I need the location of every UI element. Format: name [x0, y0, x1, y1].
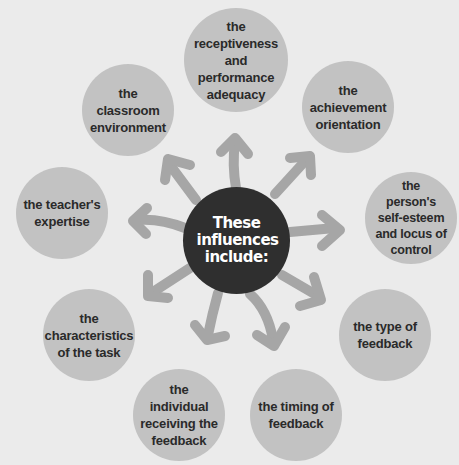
node-individual-receiving: the individual receiving the feedback — [133, 369, 225, 461]
arrow-right-icon — [290, 215, 340, 246]
node-label: the type of feedback — [349, 318, 421, 352]
node-classroom-environment: the classroom environment — [82, 64, 174, 156]
node-label: the person's self-esteem and locus of co… — [371, 178, 450, 258]
node-label: the timing of feedback — [254, 398, 337, 432]
node-characteristics-of-task: the characteristics of the task — [43, 289, 135, 381]
center-label: These influences include: — [197, 215, 277, 266]
arrow-down-left-icon — [148, 268, 190, 298]
center-hub: These influences include: — [183, 187, 290, 294]
arrow-down-right-icon — [282, 275, 321, 306]
arrow-down-left-curve-icon — [195, 293, 225, 340]
node-label: the teacher's expertise — [19, 196, 104, 230]
node-teachers-expertise: the teacher's expertise — [16, 167, 108, 259]
node-label: the receptiveness and performance adequa… — [184, 18, 288, 103]
arrow-up-right-icon — [275, 156, 311, 194]
node-self-esteem: the person's self-esteem and locus of co… — [365, 172, 457, 264]
arrow-up-icon — [221, 138, 248, 188]
node-achievement-orientation: the achievement orientation — [302, 61, 394, 153]
node-receptiveness: the receptiveness and performance adequa… — [184, 8, 288, 112]
node-label: the individual receiving the feedback — [136, 381, 222, 449]
influences-diagram: the receptiveness and performance adequa… — [0, 0, 459, 465]
arrow-left-icon — [133, 208, 185, 234]
arrow-up-left-icon — [165, 159, 196, 200]
node-label: the characteristics of the task — [41, 310, 138, 361]
node-label: the achievement orientation — [306, 82, 391, 133]
arrow-down-right-curve-icon — [250, 294, 285, 346]
node-label: the classroom environment — [82, 85, 174, 136]
node-type-of-feedback: the type of feedback — [339, 289, 431, 381]
node-timing-of-feedback: the timing of feedback — [250, 369, 342, 461]
